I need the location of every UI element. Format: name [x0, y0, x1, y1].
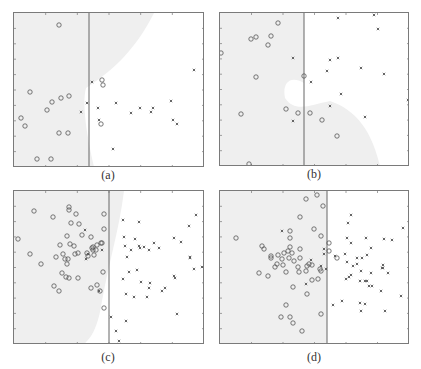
cross-marker — [133, 296, 135, 298]
plot-area-c — [14, 191, 204, 344]
cross-marker — [329, 59, 331, 61]
cross-marker — [337, 17, 339, 19]
cross-marker — [340, 93, 342, 95]
cross-marker — [180, 241, 182, 243]
cross-marker — [347, 222, 349, 224]
cross-marker — [360, 310, 362, 312]
caption-c: (c) — [88, 350, 128, 365]
cross-marker — [125, 293, 127, 295]
cross-marker — [359, 302, 361, 304]
cross-marker — [387, 272, 389, 274]
cross-marker — [360, 67, 362, 69]
circle-marker — [99, 122, 103, 126]
cross-marker — [352, 265, 354, 267]
cross-marker — [110, 316, 112, 318]
cross-marker — [150, 111, 152, 113]
cross-marker — [158, 247, 160, 249]
cross-marker — [173, 237, 175, 239]
cross-marker — [161, 290, 163, 292]
scatter-panel-c — [13, 190, 204, 344]
cross-marker — [370, 272, 372, 274]
shaded-region — [220, 13, 380, 166]
cross-marker — [153, 242, 155, 244]
shaded-region — [220, 191, 327, 344]
cross-marker — [97, 107, 99, 109]
cross-marker — [356, 263, 358, 265]
cross-marker — [384, 310, 386, 312]
shaded-region — [14, 13, 154, 167]
cross-marker — [115, 330, 117, 332]
cross-marker — [86, 102, 88, 104]
cross-marker — [188, 225, 190, 227]
cross-marker — [115, 102, 117, 104]
cross-marker — [124, 245, 126, 247]
cross-marker — [350, 214, 352, 216]
cross-marker — [172, 119, 174, 121]
cross-marker — [126, 256, 128, 258]
cross-marker — [366, 280, 368, 282]
cross-marker — [356, 257, 358, 259]
cross-marker — [146, 296, 148, 298]
cross-marker — [383, 73, 385, 75]
scatter-panel-d — [219, 190, 409, 344]
cross-marker — [380, 290, 382, 292]
caption-a: (a) — [88, 168, 128, 183]
cross-marker — [195, 214, 197, 216]
cross-marker — [359, 280, 361, 282]
cross-marker — [176, 313, 178, 315]
cross-marker — [364, 303, 366, 305]
cross-marker — [122, 219, 124, 221]
cross-marker — [337, 57, 339, 59]
cross-marker — [361, 257, 363, 259]
cross-marker — [400, 295, 402, 297]
cross-marker — [149, 282, 151, 284]
cross-marker — [407, 99, 409, 101]
cross-marker — [123, 236, 125, 238]
cross-marker — [136, 269, 138, 271]
caption-d: (d) — [294, 350, 334, 365]
cross-marker — [128, 271, 130, 273]
cross-marker — [391, 239, 393, 241]
cross-marker — [130, 112, 132, 114]
cross-marker — [139, 107, 141, 109]
cross-marker — [176, 123, 178, 125]
cross-marker — [164, 287, 166, 289]
cross-marker — [346, 261, 348, 263]
cross-marker — [382, 264, 384, 266]
cross-marker — [383, 238, 385, 240]
cross-marker — [152, 107, 154, 109]
cross-marker — [364, 116, 366, 118]
cross-marker — [370, 247, 372, 249]
cross-marker — [138, 221, 140, 223]
cross-marker — [140, 281, 142, 283]
plot-area-b — [220, 13, 409, 166]
caption-b: (b) — [294, 167, 334, 182]
cross-marker — [122, 278, 124, 280]
cross-marker — [193, 268, 195, 270]
cross-marker — [143, 246, 145, 248]
cross-marker — [348, 276, 350, 278]
shaded-region — [14, 191, 124, 344]
cross-marker — [346, 237, 348, 239]
cross-marker — [350, 242, 352, 244]
circle-marker — [100, 78, 104, 82]
cross-marker — [332, 304, 334, 306]
cross-marker — [341, 300, 343, 302]
cross-marker — [402, 227, 404, 229]
cross-marker — [373, 14, 375, 16]
cross-marker — [371, 285, 373, 287]
cross-marker — [134, 238, 136, 240]
cross-marker — [148, 287, 150, 289]
circle-marker — [102, 306, 106, 310]
cross-marker — [365, 237, 367, 239]
cross-marker — [148, 249, 150, 251]
cross-marker — [310, 81, 312, 83]
cross-marker — [170, 100, 172, 102]
cross-marker — [118, 340, 120, 342]
plot-area-d — [220, 191, 409, 344]
cross-marker — [98, 119, 100, 121]
circle-marker — [101, 83, 105, 87]
cross-marker — [368, 285, 370, 287]
scatter-panel-b — [219, 12, 409, 166]
scatter-panel-a — [13, 12, 204, 167]
